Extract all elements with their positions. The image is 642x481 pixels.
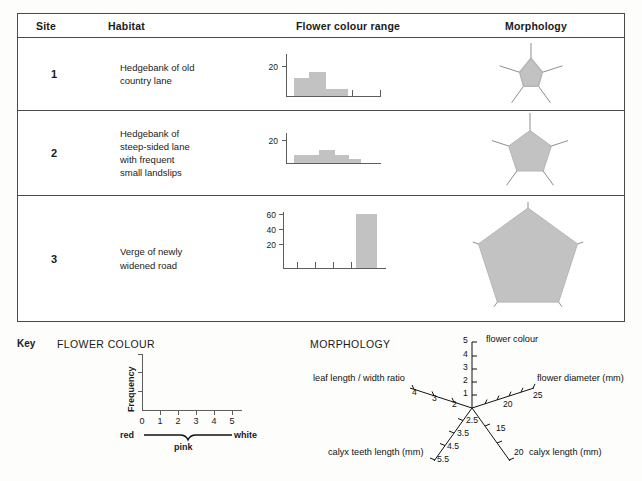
- key-x-tick-label: 0: [136, 416, 148, 426]
- key-y-tick: [138, 354, 143, 355]
- key-tick-flower-colour: 4: [463, 349, 468, 359]
- table-header-row: Site Habitat Flower colour range Morphol…: [18, 14, 624, 38]
- histogram-bar: [310, 155, 319, 163]
- y-tick-label: 20: [256, 62, 278, 72]
- histogram-bar: [335, 155, 349, 163]
- table-row: 1 Hedgebank of old country lane 20: [18, 38, 624, 111]
- radar-polygon: [520, 58, 543, 86]
- key-tick-leaf-ratio: 2: [452, 399, 457, 409]
- y-tick: [282, 140, 287, 141]
- key-x-tick-label: 5: [226, 416, 238, 426]
- cell-site: 3: [18, 196, 90, 321]
- key-axis-label-calyx-teeth-length: calyx teeth length (mm): [328, 447, 423, 457]
- header-label-habitat: Habitat: [90, 14, 248, 37]
- morphology-star-site-1: [476, 40, 586, 110]
- y-tick: [279, 244, 284, 245]
- key-tick-calyx-teeth: 5.5: [437, 454, 449, 464]
- habitat-description: Verge of newly widened road: [90, 196, 248, 321]
- cell-site: 2: [18, 111, 90, 195]
- x-axis: [286, 163, 381, 164]
- frequency-axis-label: Frequency: [126, 366, 136, 412]
- x-tick: [297, 262, 298, 268]
- habitat-description: Hedgebank of old country lane: [90, 38, 248, 110]
- table-row: 3 Verge of newly widened road 60 40 20: [18, 196, 624, 321]
- histogram-bar: [309, 72, 326, 96]
- x-tick: [351, 262, 352, 268]
- header-label-morphology: Morphology: [448, 14, 624, 37]
- key-tick-calyx-length: 15: [496, 423, 506, 433]
- y-axis: [286, 54, 287, 96]
- x-tick: [352, 90, 353, 96]
- y-tick-label: 40: [254, 225, 276, 235]
- key-x-tick-label: 4: [208, 416, 220, 426]
- y-tick: [282, 66, 287, 67]
- key-axis-label-leaf-ratio: leaf length / width ratio: [313, 373, 405, 383]
- key-x-tick: [196, 410, 197, 415]
- y-tick-label: 20: [256, 136, 278, 146]
- key-x-tick-label: 1: [154, 416, 166, 426]
- key-flower-colour-diagram: Frequency 0 1 2 3 4 5 red white pink: [118, 352, 298, 462]
- y-tick: [279, 214, 284, 215]
- histogram-bar: [349, 159, 361, 163]
- morphology-star-site-2: [470, 109, 590, 195]
- habitat-description: Hedgebank of steep-sided lane with frequ…: [90, 111, 248, 195]
- cell-habitat: Hedgebank of old country lane: [90, 38, 248, 110]
- histogram-site-3: 60 40 20: [248, 196, 448, 321]
- radar-svg: [476, 40, 586, 110]
- site-number: 3: [18, 196, 90, 321]
- y-axis: [286, 133, 287, 163]
- key-tick-flower-colour: 2: [463, 375, 468, 385]
- x-tick: [380, 90, 381, 96]
- key-axis-label-flower-diameter: flower diameter (mm): [537, 373, 624, 383]
- histogram-bar: [326, 89, 348, 96]
- key-tick-flower-diameter: 20: [503, 399, 513, 409]
- radar-polygon: [479, 208, 578, 302]
- key-x-tick: [232, 410, 233, 415]
- cell-habitat: Hedgebank of steep-sided lane with frequ…: [90, 111, 248, 195]
- radar-polygon: [509, 131, 552, 172]
- key-x-tick: [160, 410, 161, 415]
- histogram-bar: [319, 150, 335, 163]
- radar-svg: [456, 198, 606, 320]
- y-tick-label: 20: [254, 240, 276, 250]
- y-tick-label: 60: [254, 210, 276, 220]
- cell-morphology: [448, 111, 624, 195]
- morphology-star-site-3: [456, 198, 606, 320]
- histogram-bar: [294, 155, 310, 163]
- x-tick: [315, 262, 316, 268]
- key-tick-leaf-ratio: 4: [412, 387, 417, 397]
- header-cell-habitat: Habitat: [90, 14, 248, 37]
- cell-morphology: [448, 38, 624, 110]
- key-tick-flower-colour: 3: [463, 362, 468, 372]
- key-x-tick-label: 2: [172, 416, 184, 426]
- header-cell-site: Site: [18, 14, 90, 37]
- table-row: 2 Hedgebank of steep-sided lane with fre…: [18, 111, 624, 196]
- sites-table: Site Habitat Flower colour range Morphol…: [17, 13, 625, 322]
- y-axis: [283, 212, 284, 268]
- key-x-tick: [178, 410, 179, 415]
- key-x-axis: [142, 410, 242, 411]
- header-cell-morphology: Morphology: [448, 14, 624, 37]
- cell-flower-colour-range: 20: [248, 38, 448, 110]
- key-tick-calyx-teeth: 2.5: [466, 415, 478, 425]
- histogram-bar: [294, 78, 309, 96]
- key-tick-flower-diameter: 25: [533, 390, 543, 400]
- header-label-flower-colour-range: Flower colour range: [248, 14, 448, 37]
- cell-flower-colour-range: 20: [248, 111, 448, 195]
- key-morphology-diagram: flower colour flower diameter (mm) calyx…: [300, 330, 642, 481]
- key-label-red: red: [120, 430, 134, 440]
- cell-morphology: [448, 196, 624, 321]
- site-number: 2: [18, 111, 90, 195]
- key-radar-svg: [300, 330, 642, 481]
- key-tick-calyx-teeth: 3.5: [457, 428, 469, 438]
- key-tick-flower-colour: 5: [463, 335, 468, 345]
- cell-habitat: Verge of newly widened road: [90, 196, 248, 321]
- cell-site: 1: [18, 38, 90, 110]
- header-label-site: Site: [18, 14, 90, 37]
- site-number: 1: [18, 38, 90, 110]
- pink-range-brace: [142, 430, 262, 452]
- x-tick: [333, 262, 334, 268]
- key-flower-colour-title: FLOWER COLOUR: [57, 338, 155, 350]
- key-y-tick: [138, 391, 143, 392]
- key-axis-label-calyx-length: calyx length (mm): [529, 447, 602, 457]
